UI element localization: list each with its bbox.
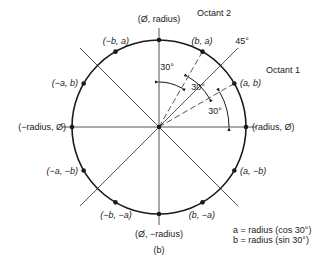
point-label: (−radius, Ø)	[18, 122, 66, 132]
arrowhead-icon	[227, 127, 230, 131]
angle-45-label: 45°	[235, 36, 249, 46]
point-label: (b, −a)	[189, 210, 215, 220]
figure-caption: (b)	[154, 245, 165, 255]
point-marker	[113, 200, 118, 205]
point-label: (−a, b)	[52, 78, 78, 88]
point-label: (radius, Ø)	[252, 122, 295, 132]
point-label: (Ø, radius)	[138, 14, 181, 24]
circle-figure: 30°30°30° (Ø, radius)(b, a)(a, b)(radius…	[0, 0, 331, 271]
angle-30-label-2: 30°	[160, 62, 174, 72]
point-label: (b, a)	[191, 36, 212, 46]
legend-a-definition: a = radius (cos 30°)	[233, 225, 311, 235]
point-marker	[200, 200, 205, 205]
arrowhead-icon	[209, 98, 212, 102]
point-label: (−a, −b)	[46, 166, 78, 176]
point-label: (a, −b)	[240, 166, 266, 176]
point-marker	[232, 81, 237, 86]
arrowhead-icon	[155, 80, 159, 83]
point-marker	[157, 38, 162, 43]
angle-30-label-1: 30°	[191, 82, 205, 92]
point-marker	[81, 81, 86, 86]
arrowhead-icon	[182, 88, 186, 91]
angle-arc-2	[159, 82, 182, 88]
point-marker	[113, 49, 118, 54]
point-marker	[232, 168, 237, 173]
arrowhead-icon	[216, 88, 219, 92]
point-marker	[157, 212, 162, 217]
point-marker	[200, 49, 205, 54]
arrowhead-icon	[184, 73, 188, 76]
point-label: (Ø, −radius)	[135, 229, 183, 239]
point-label: (−b, a)	[103, 36, 129, 46]
center-dot	[157, 125, 161, 129]
point-label: (a, b)	[240, 78, 261, 88]
angle-30-label-0: 30°	[208, 106, 222, 116]
octant-symmetry-diagram: 30°30°30° (Ø, radius)(b, a)(a, b)(radius…	[0, 0, 331, 271]
point-label: (−b, −a)	[100, 210, 132, 220]
legend-b-definition: b = radius (sin 30°)	[233, 235, 309, 245]
point-marker	[70, 125, 75, 130]
octant-1-label: Octant 1	[266, 65, 300, 75]
octant-2-label: Octant 2	[197, 8, 231, 18]
angle-arcs: 30°30°30°	[155, 62, 231, 131]
point-marker	[81, 168, 86, 173]
point-marker	[244, 125, 249, 130]
